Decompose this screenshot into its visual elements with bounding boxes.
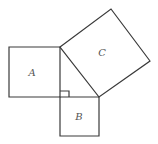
right-angle-marker bbox=[60, 91, 69, 97]
label-a: A bbox=[27, 67, 35, 78]
label-b: B bbox=[74, 111, 82, 122]
pythagorean-diagram: A B C bbox=[0, 0, 158, 144]
label-c: C bbox=[98, 47, 106, 58]
